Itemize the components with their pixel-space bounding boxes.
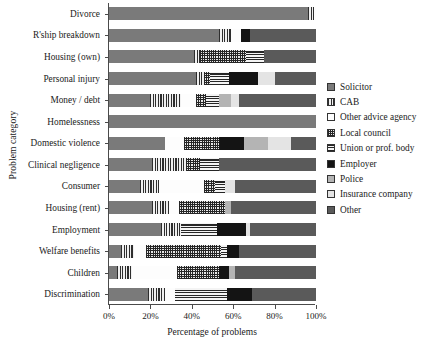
legend-label: Police bbox=[340, 174, 363, 184]
bar-segment-solicitor bbox=[109, 288, 148, 301]
x-axis-title: Percentage of problems bbox=[108, 327, 316, 337]
legend-swatch-icon bbox=[327, 144, 335, 152]
bar-segment-solicitor bbox=[109, 50, 194, 63]
bar-segment-other-advice-agency bbox=[314, 7, 316, 20]
bar-segment-solicitor bbox=[109, 245, 121, 258]
bar-housing-own bbox=[109, 50, 316, 63]
bar-segment-union-or-prof-body bbox=[181, 223, 216, 236]
legend-item-police[interactable]: Police bbox=[327, 171, 433, 186]
bar-segment-union-or-prof-body bbox=[200, 158, 219, 171]
bar-children bbox=[109, 266, 316, 279]
bar-discrimination bbox=[109, 288, 316, 301]
y-axis-label-housing-rent: Housing (rent) bbox=[0, 203, 100, 213]
bar-segment-local-council bbox=[179, 201, 225, 214]
legend-swatch-icon bbox=[327, 129, 335, 137]
bar-consumer bbox=[109, 180, 316, 193]
bar-segment-other bbox=[235, 180, 316, 193]
bar-welfare-benefits bbox=[109, 245, 316, 258]
legend-item-local-council[interactable]: Local council bbox=[327, 125, 433, 140]
bar-segment-local-council bbox=[200, 50, 246, 63]
bar-segment-insurance-company bbox=[231, 94, 239, 107]
y-axis-label-children: Children bbox=[0, 268, 100, 278]
bar-clinical-negligence bbox=[109, 158, 316, 171]
legend-swatch-icon bbox=[327, 98, 335, 106]
legend-item-solicitor[interactable]: Solicitor bbox=[327, 79, 433, 94]
legend-swatch-icon bbox=[327, 113, 335, 121]
bar-segment-union-or-prof-body bbox=[206, 94, 218, 107]
bar-segment-solicitor bbox=[109, 94, 150, 107]
bar-segment-other bbox=[275, 72, 316, 85]
bar-segment-solicitor bbox=[109, 201, 152, 214]
bar-segment-cab bbox=[152, 201, 169, 214]
x-axis-tick bbox=[150, 305, 151, 309]
x-axis-tick-label: 40% bbox=[175, 311, 209, 321]
legend-label: Local council bbox=[340, 128, 391, 138]
y-axis-label-divorce: Divorce bbox=[0, 9, 100, 19]
x-axis-tick-label: 20% bbox=[133, 311, 167, 321]
bar-segment-other-advice-agency bbox=[231, 29, 241, 42]
legend-item-other[interactable]: Other bbox=[327, 202, 433, 217]
bar-segment-union-or-prof-body bbox=[215, 180, 225, 193]
bar-segment-solicitor bbox=[109, 158, 152, 171]
bar-segment-other bbox=[264, 50, 316, 63]
bar-segment-other-advice-agency bbox=[181, 94, 195, 107]
legend-label: Other bbox=[340, 205, 361, 215]
x-axis-tick bbox=[109, 305, 110, 309]
bar-segment-other-advice-agency bbox=[134, 245, 146, 258]
legend-item-insurance-company[interactable]: Insurance company bbox=[327, 187, 433, 202]
legend-label: Insurance company bbox=[340, 189, 413, 199]
bar-segment-cab bbox=[117, 266, 131, 279]
bar-segment-solicitor bbox=[109, 180, 140, 193]
bar-segment-local-council bbox=[184, 137, 219, 150]
bar-segment-other bbox=[235, 266, 316, 279]
y-axis-label-welfare-benefits: Welfare benefits bbox=[0, 246, 100, 256]
bar-segment-other-advice-agency bbox=[159, 180, 205, 193]
bar-segment-local-council bbox=[204, 180, 214, 193]
bar-segment-other bbox=[239, 245, 316, 258]
legend-swatch-icon bbox=[327, 175, 335, 183]
bar-segment-employer bbox=[227, 245, 239, 258]
bar-segment-solicitor bbox=[109, 137, 165, 150]
x-axis-tick bbox=[316, 305, 317, 309]
bar-segment-local-council bbox=[146, 245, 221, 258]
bar-segment-employer bbox=[217, 223, 246, 236]
legend-label: CAB bbox=[340, 97, 359, 107]
y-axis-label-r-ship-breakdown: R'ship breakdown bbox=[0, 30, 100, 40]
bar-segment-cab bbox=[148, 288, 165, 301]
bar-segment-union-or-prof-body bbox=[210, 72, 229, 85]
bar-segment-other bbox=[250, 223, 316, 236]
legend-item-employer[interactable]: Employer bbox=[327, 156, 433, 171]
bar-domestic-violence bbox=[109, 137, 316, 150]
legend-swatch-icon bbox=[327, 160, 335, 168]
legend-item-cab[interactable]: CAB bbox=[327, 94, 433, 109]
legend-item-other-advice-agency[interactable]: Other advice agency bbox=[327, 110, 433, 125]
bar-segment-other bbox=[291, 137, 316, 150]
y-axis-category-labels: DivorceR'ship breakdownHousing (own)Pers… bbox=[0, 3, 104, 305]
bar-r-ship-breakdown bbox=[109, 29, 316, 42]
bar-segment-solicitor bbox=[109, 72, 196, 85]
legend-label: Employer bbox=[340, 159, 377, 169]
bar-segment-police bbox=[219, 94, 231, 107]
bar-segment-cab bbox=[196, 72, 204, 85]
x-axis-tick-label: 80% bbox=[258, 311, 292, 321]
bar-segment-cab bbox=[150, 94, 181, 107]
bar-segment-employer bbox=[241, 29, 249, 42]
bar-segment-employer bbox=[219, 137, 244, 150]
bar-segment-other bbox=[239, 94, 316, 107]
y-axis-label-clinical-negligence: Clinical negligence bbox=[0, 160, 100, 170]
legend-label: Solicitor bbox=[340, 82, 372, 92]
legend-item-union-or-prof-body[interactable]: Union or prof. body bbox=[327, 141, 433, 156]
bar-segment-cab bbox=[152, 158, 185, 171]
bar-segment-cab bbox=[219, 29, 231, 42]
bar-segment-cab bbox=[140, 180, 159, 193]
bar-segment-other bbox=[252, 288, 316, 301]
legend-swatch-icon bbox=[327, 206, 335, 214]
x-axis-tick-label: 60% bbox=[216, 311, 250, 321]
y-axis-label-consumer: Consumer bbox=[0, 181, 100, 191]
bar-segment-local-council bbox=[186, 158, 200, 171]
bar-housing-rent bbox=[109, 201, 316, 214]
y-axis-label-discrimination: Discrimination bbox=[0, 289, 100, 299]
y-axis-label-personal-injury: Personal injury bbox=[0, 74, 100, 84]
bar-segment-solicitor bbox=[109, 115, 316, 128]
chart-legend: SolicitorCABOther advice agencyLocal cou… bbox=[327, 79, 433, 218]
